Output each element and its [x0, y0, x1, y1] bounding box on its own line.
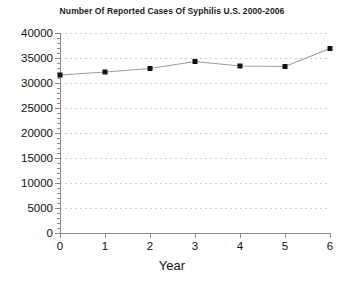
y-axis-tick-label: 0 — [47, 227, 53, 239]
x-axis-tick-label: 1 — [102, 240, 108, 252]
series-layer — [60, 33, 330, 233]
data-point-marker — [283, 64, 288, 69]
x-axis-tick-label: 2 — [147, 240, 153, 252]
x-axis-tick-label: 3 — [192, 240, 198, 252]
y-axis-tick-labels: 0500010000150002000025000300003500040000 — [0, 0, 53, 287]
x-axis-tick-label: 0 — [57, 240, 63, 252]
y-axis-tick-label: 5000 — [27, 202, 53, 214]
x-axis-tick-label: 5 — [282, 240, 288, 252]
data-point-marker — [148, 66, 153, 71]
data-point-marker — [193, 59, 198, 64]
data-point-marker — [238, 64, 243, 69]
syphilis-cases-line-chart: Number Of Reported Cases Of Syphilis U.S… — [0, 0, 344, 287]
x-axis-label: Year — [0, 258, 344, 273]
x-axis-tick-label: 6 — [327, 240, 333, 252]
data-point-marker — [328, 46, 333, 51]
y-axis-tick-label: 15000 — [21, 152, 53, 164]
y-axis-tick-label: 20000 — [21, 127, 53, 139]
plot-area — [60, 33, 330, 233]
y-axis-tick-label: 35000 — [21, 52, 53, 64]
y-axis-tick-label: 40000 — [21, 27, 53, 39]
data-point-marker — [58, 73, 63, 78]
y-axis-tick-label: 30000 — [21, 77, 53, 89]
y-axis-tick-label: 10000 — [21, 177, 53, 189]
data-point-marker — [103, 70, 108, 75]
x-axis-tick-label: 4 — [237, 240, 243, 252]
y-axis-tick-label: 25000 — [21, 102, 53, 114]
